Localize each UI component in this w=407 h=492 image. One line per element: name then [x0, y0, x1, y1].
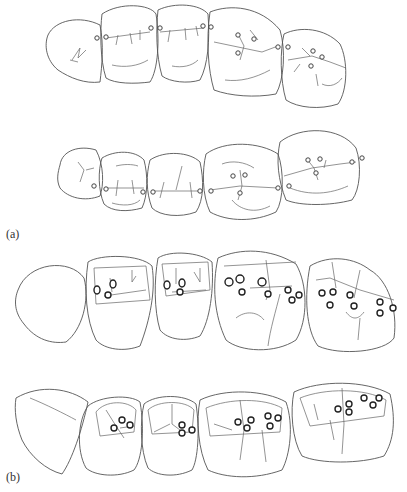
contact-point-marker: [318, 157, 322, 161]
contact-point-marker: [111, 425, 117, 431]
contact-point-marker: [244, 425, 250, 431]
tooth-outline: [147, 153, 202, 215]
contact-point-marker: [319, 290, 325, 296]
contact-point-marker: [320, 55, 324, 59]
contact-point-marker: [149, 26, 153, 30]
upper-arch-a: [46, 5, 346, 107]
tooth: [99, 152, 147, 210]
contact-point-marker: [360, 156, 364, 160]
tooth: [46, 20, 102, 83]
contact-point-marker: [286, 45, 290, 49]
contact-point-marker: [309, 64, 313, 68]
panel-label-b: (b): [6, 470, 20, 485]
panel-a: [46, 5, 364, 219]
contact-point-marker: [243, 173, 247, 177]
contact-point-marker: [209, 25, 213, 29]
fissure-line: [148, 403, 194, 435]
contact-point-marker: [311, 49, 315, 53]
contact-point-marker: [104, 35, 108, 39]
tooth: [101, 6, 158, 83]
contact-point-marker: [306, 158, 310, 162]
contact-point-marker: [141, 190, 145, 194]
contact-point-marker: [350, 160, 354, 164]
contact-point-marker: [225, 278, 233, 286]
contact-point-marker: [265, 291, 271, 297]
fissure-line: [30, 398, 76, 420]
contact-point-marker: [179, 430, 185, 436]
tooth-outline: [155, 253, 212, 339]
contact-point-marker: [258, 278, 266, 286]
tooth: [16, 266, 86, 343]
fissure-line: [70, 48, 86, 62]
contact-point-marker: [94, 286, 100, 294]
contact-point-marker: [267, 423, 273, 429]
contact-point-marker: [296, 292, 302, 298]
tooth-outline: [281, 29, 346, 107]
fissure-line: [94, 266, 150, 304]
contact-point-marker: [189, 427, 195, 433]
contact-point-marker: [276, 45, 280, 49]
fissure-line: [210, 162, 278, 210]
tooth: [147, 153, 202, 215]
contact-point-marker: [287, 184, 291, 188]
fissure-line: [154, 166, 198, 198]
contact-point-marker: [248, 417, 254, 423]
contact-point-marker: [265, 413, 271, 419]
panel-label-a: (a): [6, 227, 19, 242]
tooth: [58, 148, 103, 199]
contact-point-marker: [285, 287, 291, 293]
fissure-line: [288, 48, 346, 86]
tooth-outline: [99, 152, 147, 210]
contact-point-marker: [231, 174, 235, 178]
contact-point-marker: [236, 33, 240, 37]
contact-point-marker: [289, 297, 295, 303]
contact-point-marker: [346, 409, 352, 415]
fissure-line: [106, 165, 144, 205]
fissure-line: [160, 26, 204, 67]
contact-point-marker: [236, 275, 244, 283]
tooth-outline: [16, 266, 86, 343]
contact-point-marker: [209, 189, 213, 193]
lower-arch-a: [58, 131, 365, 220]
contact-point-marker: [236, 51, 240, 55]
tooth: [198, 392, 290, 477]
contact-point-marker: [95, 36, 99, 40]
tooth: [281, 29, 346, 107]
fissure-line: [78, 162, 94, 182]
contact-point-marker: [390, 305, 396, 311]
contact-point-marker: [314, 171, 318, 175]
tooth: [208, 8, 284, 96]
contact-point-marker: [376, 395, 382, 401]
contact-point-marker: [201, 24, 205, 28]
contact-point-marker: [276, 186, 280, 190]
tooth: [203, 144, 282, 219]
fissure-line: [106, 30, 150, 66]
contact-point-marker: [347, 292, 353, 298]
contact-point-marker: [151, 190, 155, 194]
tooth-outline: [46, 20, 102, 83]
upper-arch-b: [16, 251, 396, 351]
contact-point-marker: [275, 415, 281, 421]
contact-point-marker: [105, 292, 111, 298]
contact-point-marker: [361, 395, 367, 401]
contact-point-marker: [119, 417, 125, 423]
tooth: [157, 5, 209, 82]
contact-point-marker: [235, 419, 241, 425]
contact-point-marker: [177, 289, 183, 295]
contact-point-marker: [377, 310, 383, 316]
fissure-line: [284, 158, 356, 193]
contact-point-marker: [370, 402, 376, 408]
contact-point-marker: [335, 406, 341, 412]
contact-point-marker: [238, 191, 242, 195]
panel-b: [15, 251, 396, 477]
contact-point-marker: [252, 37, 256, 41]
contact-point-marker: [104, 187, 108, 191]
dental-occlusion-figure: [0, 0, 407, 492]
contact-point-marker: [198, 189, 202, 193]
tooth-outline: [58, 148, 103, 199]
tooth-outline: [208, 8, 284, 96]
fissure-line: [172, 268, 206, 292]
contact-point-marker: [92, 184, 96, 188]
contact-point-marker: [110, 280, 116, 288]
fissure-line: [154, 404, 180, 432]
